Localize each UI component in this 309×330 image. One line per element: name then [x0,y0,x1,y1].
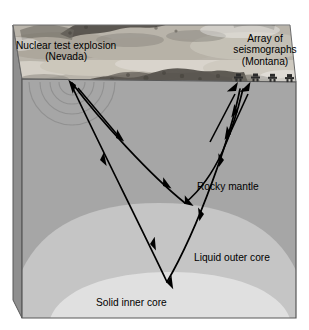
figure-container: Nuclear test explosion(Nevada) Array ofs… [0,0,309,330]
earth-cross-section-diagram [0,0,309,330]
block-top-surface [13,25,296,82]
